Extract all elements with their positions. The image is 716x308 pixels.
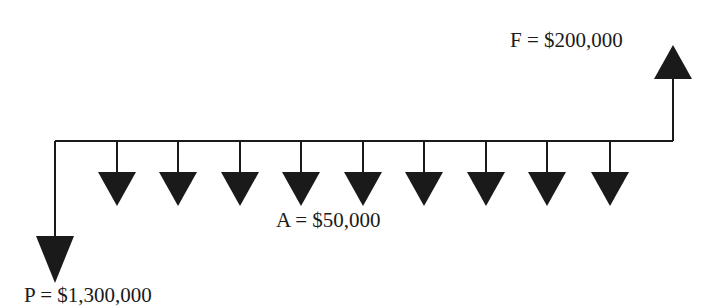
present-value-label: P = $1,300,000 bbox=[24, 283, 152, 308]
annuity-arrows bbox=[98, 141, 629, 206]
future-value-label: F = $200,000 bbox=[510, 28, 623, 53]
annuity-arrow bbox=[528, 141, 566, 206]
annuity-label: A = $50,000 bbox=[276, 208, 381, 233]
annuity-arrow bbox=[98, 141, 136, 206]
annuity-arrow bbox=[344, 141, 382, 206]
present-value-arrow bbox=[36, 141, 74, 283]
future-value-arrow bbox=[654, 45, 692, 141]
annuity-arrow bbox=[159, 141, 197, 206]
annuity-arrow bbox=[221, 141, 259, 206]
annuity-arrow bbox=[467, 141, 505, 206]
annuity-arrow bbox=[282, 141, 320, 206]
annuity-arrow bbox=[405, 141, 443, 206]
annuity-arrow bbox=[591, 141, 629, 206]
